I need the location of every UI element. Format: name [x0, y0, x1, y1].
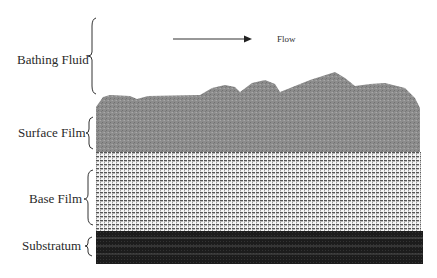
base-film-brace-icon — [84, 170, 93, 225]
bathing-fluid-label: Bathing Fluid — [17, 52, 89, 68]
substratum-label: Substratum — [22, 238, 81, 254]
flow-label: Flow — [277, 34, 296, 44]
bathing-fluid-brace-icon — [88, 18, 96, 94]
substratum-region — [96, 231, 423, 264]
surface-film-region — [96, 72, 420, 152]
base-film-label: Base Film — [29, 191, 82, 207]
base-film-region — [96, 152, 421, 231]
surface-film-label: Surface Film — [18, 125, 86, 141]
biofilm-diagram: Flow Bathing Fluid Surface Film Base Fil… — [0, 0, 437, 278]
surface-film-brace-icon — [86, 117, 93, 149]
flow-arrow-icon — [173, 36, 252, 43]
substratum-brace-icon — [85, 237, 92, 256]
